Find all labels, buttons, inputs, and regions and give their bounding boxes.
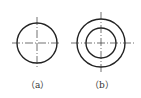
figure-a [12, 17, 60, 68]
diagram-canvas [0, 0, 141, 98]
figure-b [71, 12, 134, 72]
caption-a: （a） [26, 80, 49, 90]
caption-b: （b） [90, 80, 114, 90]
